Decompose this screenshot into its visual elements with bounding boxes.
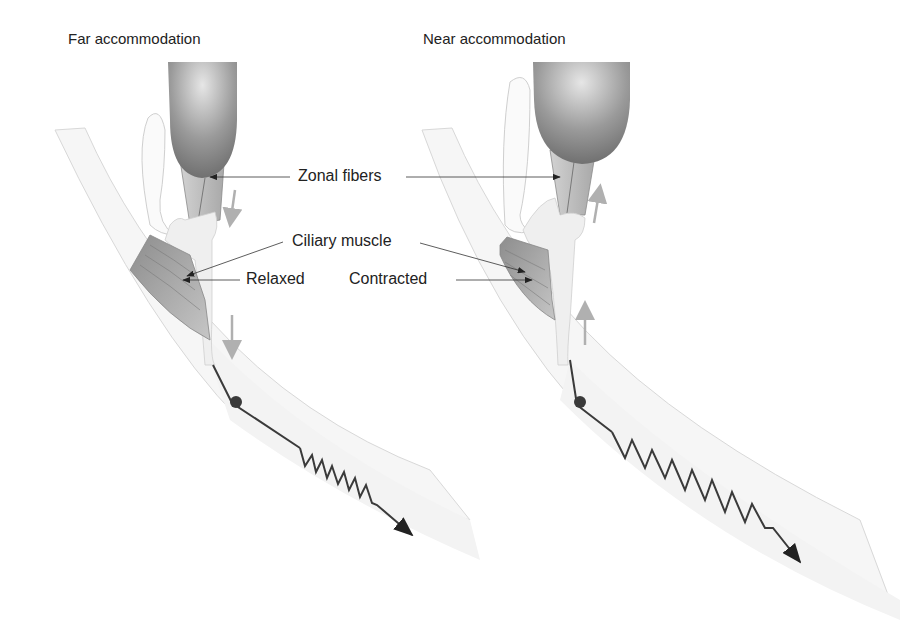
diagram-graphics [0, 0, 908, 627]
far-panel-title: Far accommodation [68, 30, 201, 47]
accommodation-diagram: Far accommodation Near accommodation Zon… [0, 0, 908, 627]
near-panel-title: Near accommodation [423, 30, 566, 47]
near-eye-wall [422, 128, 890, 600]
far-lens [168, 62, 237, 178]
zonal-fibers-label: Zonal fibers [298, 167, 382, 185]
contracted-label: Contracted [349, 270, 427, 288]
near-panel [406, 62, 900, 620]
near-lens [533, 62, 630, 164]
near-ciliary-process [503, 78, 530, 233]
ciliary-muscle-label: Ciliary muscle [292, 232, 392, 250]
near-fiber-direction-arrow [594, 193, 599, 223]
far-panel [55, 62, 480, 560]
far-ciliary-process [142, 114, 175, 235]
near-pivot [574, 396, 586, 408]
far-pivot [230, 396, 242, 408]
far-fiber-direction-arrow [231, 190, 235, 218]
far-eye-wall [55, 128, 470, 520]
relaxed-label: Relaxed [246, 270, 305, 288]
